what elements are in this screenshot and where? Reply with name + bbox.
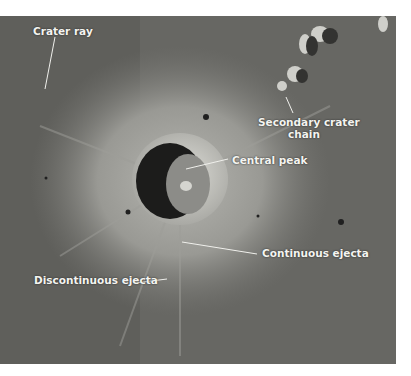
secondary-crater-chain-line1: Secondary crater xyxy=(258,116,350,128)
lunar-crater-photo: Crater ray Secondary crater chain Centra… xyxy=(0,16,396,364)
central-peak-label: Central peak xyxy=(232,154,308,166)
secondary-crater-chain-label: Secondary crater chain xyxy=(258,116,350,140)
crater-ray-label: Crater ray xyxy=(33,25,93,37)
discontinuous-ejecta-label: Discontinuous ejecta xyxy=(34,274,158,286)
secondary-crater-chain-line2: chain xyxy=(258,128,350,140)
crater-illustration xyxy=(0,16,396,364)
continuous-ejecta-label: Continuous ejecta xyxy=(262,247,369,259)
